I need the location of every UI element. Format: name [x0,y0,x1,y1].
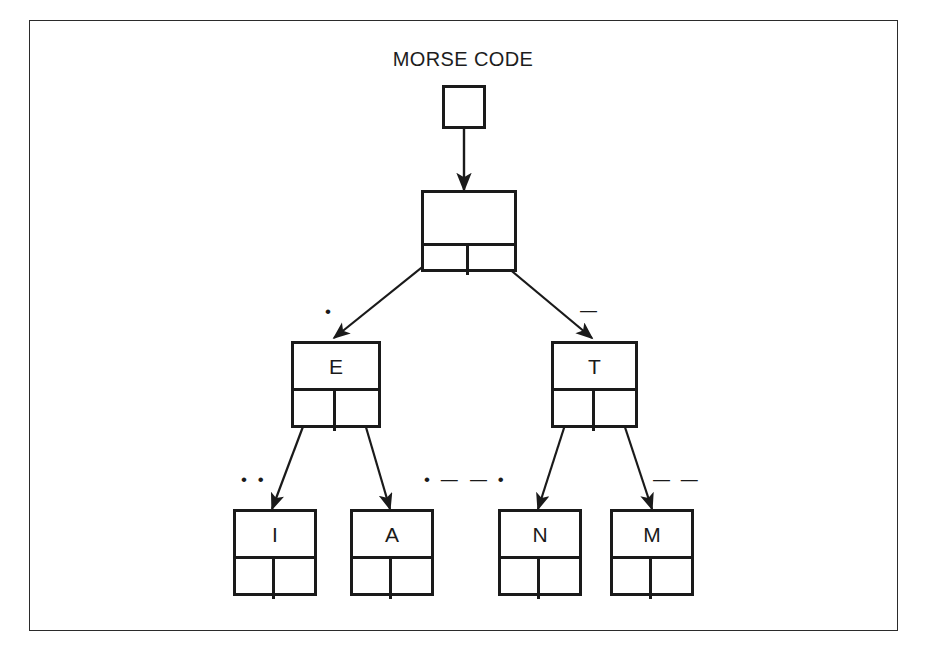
pointer-row [554,388,635,431]
left-pointer-cell[interactable] [613,559,652,599]
left-pointer-cell[interactable] [424,246,469,275]
edge-label-dot-to-e: • [325,303,334,320]
right-pointer-cell[interactable] [540,559,579,599]
tree-node-e-label: E [294,344,378,388]
tree-node-empty[interactable] [421,190,517,272]
edge-label-dash-to-t: — [580,302,600,319]
pointer-row [353,556,431,599]
tree-node-n[interactable]: N [498,509,582,596]
pointer-row [294,388,378,431]
tree-node-e[interactable]: E [291,341,381,428]
tree-node-t-label: T [554,344,635,388]
right-pointer-cell[interactable] [469,246,514,275]
tree-node-m[interactable]: M [610,509,694,596]
pointer-row [424,243,514,275]
right-pointer-cell[interactable] [652,559,691,599]
edge-label-dash-dot-to-n: — • [470,471,507,488]
tree-node-a-label: A [353,512,431,556]
pointer-row [613,556,691,599]
right-pointer-cell[interactable] [275,559,314,599]
tree-node-a[interactable]: A [350,509,434,596]
page-title: MORSE CODE [0,48,926,71]
edge-label-dot-dash-to-a: • — [424,471,461,488]
edge-label-dot-dot-to-i: • • [241,471,267,488]
tree-node-empty-label [424,193,514,243]
left-pointer-cell[interactable] [353,559,392,599]
right-pointer-cell[interactable] [336,391,378,431]
tree-node-i-label: I [236,512,314,556]
right-pointer-cell[interactable] [392,559,431,599]
tree-node-m-label: M [613,512,691,556]
left-pointer-cell[interactable] [501,559,540,599]
tree-node-t[interactable]: T [551,341,638,428]
left-pointer-cell[interactable] [554,391,595,431]
edge-label-dash-dash-to-m: — — [653,471,701,488]
left-pointer-cell[interactable] [236,559,275,599]
tree-node-root[interactable] [442,85,486,129]
tree-node-n-label: N [501,512,579,556]
tree-node-i[interactable]: I [233,509,317,596]
left-pointer-cell[interactable] [294,391,336,431]
pointer-row [236,556,314,599]
morse-code-figure: MORSE CODE E [0,0,926,648]
tree-node-root-label [445,88,483,126]
right-pointer-cell[interactable] [595,391,636,431]
pointer-row [501,556,579,599]
